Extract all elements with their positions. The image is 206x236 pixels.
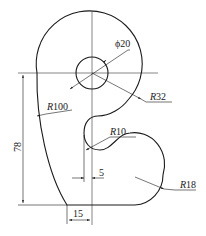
notch-offset-label: 5 bbox=[99, 167, 104, 178]
height-dimension bbox=[18, 75, 67, 205]
left-radius-label: R100 bbox=[46, 101, 68, 112]
notch-radius-label: R10 bbox=[109, 126, 126, 137]
base-offset-label: 15 bbox=[73, 208, 83, 219]
hole-diameter-label: ϕ20 bbox=[115, 38, 130, 49]
height-label: 78 bbox=[12, 142, 23, 152]
centerlines bbox=[18, 12, 158, 225]
hole-diameter-dimension bbox=[70, 50, 130, 89]
outer-radius-label: R32 bbox=[149, 91, 166, 102]
notch-radius-dimension bbox=[86, 137, 136, 150]
lobe-radius-label: R18 bbox=[179, 179, 196, 190]
technical-drawing: ϕ20 R32 R100 R10 R18 78 5 15 bbox=[0, 0, 206, 236]
